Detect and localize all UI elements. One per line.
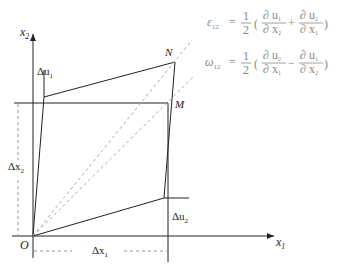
svg-text:ε12: ε12 — [207, 15, 219, 31]
svg-text:∂ x2: ∂ x2 — [300, 62, 318, 76]
point-n-label: N — [164, 46, 173, 58]
svg-text:∂ u2: ∂ u2 — [263, 48, 281, 62]
diagram-svg: x2 x1 O N M Δu1 Δu2 Δx2 Δx1 ε12 = 1 2 ( … — [0, 0, 338, 266]
svg-text:2: 2 — [243, 63, 249, 77]
svg-text:1: 1 — [243, 49, 249, 63]
strain-equation: ε12 = 1 2 ( ∂ u1 ∂ x2 + ∂ u2 ∂ x1 ) — [207, 8, 328, 37]
du2-label: Δu2 — [172, 210, 189, 225]
svg-text:∂ x1: ∂ x1 — [263, 62, 281, 76]
origin-label: O — [20, 238, 29, 252]
svg-text:=: = — [229, 15, 236, 29]
rotation-equation: ω12 = 1 2 ( ∂ u2 ∂ x1 − ∂ u1 ∂ x2 ) — [205, 48, 328, 77]
svg-text:2: 2 — [243, 23, 249, 37]
svg-text:∂ u2: ∂ u2 — [300, 8, 318, 22]
svg-text:−: − — [288, 56, 295, 70]
svg-text:): ) — [324, 17, 328, 31]
dx1-label: Δx1 — [92, 244, 109, 259]
svg-text:=: = — [229, 55, 236, 69]
svg-text:∂ x2: ∂ x2 — [263, 22, 281, 36]
svg-text:1: 1 — [243, 9, 249, 23]
svg-text:∂ u1: ∂ u1 — [263, 8, 281, 22]
svg-text:(: ( — [254, 57, 258, 71]
svg-text:): ) — [324, 57, 328, 71]
point-m-label: M — [174, 98, 185, 110]
svg-text:∂ u1: ∂ u1 — [300, 48, 318, 62]
du1-label: Δu1 — [37, 65, 54, 80]
x1-axis-label: x1 — [275, 235, 285, 251]
x2-axis-label: x2 — [19, 25, 29, 41]
deformation-diagram: x2 x1 O N M Δu1 Δu2 Δx2 Δx1 ε12 = 1 2 ( … — [0, 0, 338, 266]
svg-text:∂ x1: ∂ x1 — [300, 22, 318, 36]
deformed-element — [33, 62, 175, 236]
diagonal-dashed-2 — [33, 76, 194, 236]
svg-text:ω12: ω12 — [205, 55, 221, 71]
dx2-label: Δx2 — [8, 160, 25, 175]
svg-text:(: ( — [254, 17, 258, 31]
svg-text:+: + — [288, 16, 295, 30]
